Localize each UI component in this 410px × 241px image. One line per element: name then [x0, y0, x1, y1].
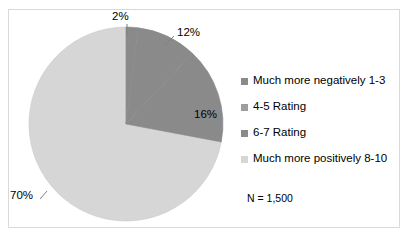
pie-chart: 2% 12% 16% 70% Much more negatively 1-3 … [0, 0, 410, 241]
leader-line-70pct [40, 191, 47, 199]
slice-label-2pct: 2% [112, 10, 129, 22]
legend-item-label: Much more positively 8-10 [253, 153, 387, 165]
legend-item-6-7-rating[interactable]: 6-7 Rating [241, 120, 399, 146]
legend: Much more negatively 1-3 4-5 Rating 6-7 … [241, 68, 399, 172]
legend-item-label: 4-5 Rating [253, 101, 306, 113]
slice-label-70pct: 70% [10, 189, 33, 201]
legend-swatch-icon [241, 78, 248, 85]
legend-item-much-more-positively[interactable]: Much more positively 8-10 [241, 146, 399, 172]
legend-swatch-icon [241, 130, 248, 137]
legend-swatch-icon [241, 156, 248, 163]
sample-size-annotation: N = 1,500 [247, 192, 293, 204]
legend-item-4-5-rating[interactable]: 4-5 Rating [241, 94, 399, 120]
legend-item-label: 6-7 Rating [253, 127, 306, 139]
slice-label-16pct: 16% [194, 108, 217, 120]
legend-item-much-more-negatively[interactable]: Much more negatively 1-3 [241, 68, 399, 94]
slice-label-12pct: 12% [177, 26, 200, 38]
legend-item-label: Much more negatively 1-3 [253, 75, 385, 87]
legend-swatch-icon [241, 104, 248, 111]
